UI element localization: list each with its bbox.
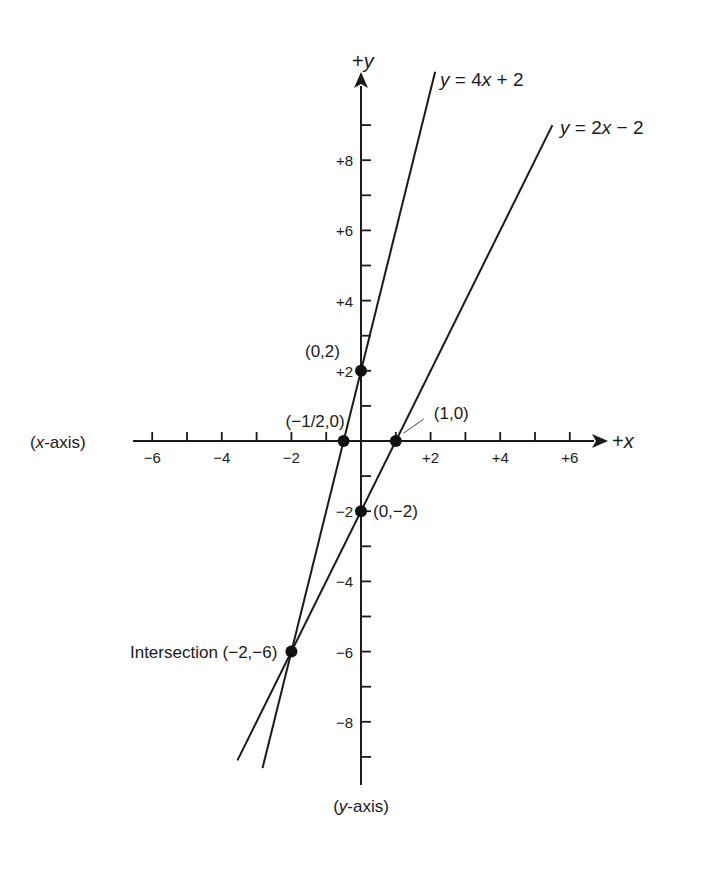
x-tick-label: −6: [144, 449, 161, 466]
y-end-var: y: [362, 50, 375, 72]
y-tick-label: +2: [336, 363, 353, 380]
point-label: (0,−2): [373, 502, 418, 521]
y-tick-label: −4: [336, 573, 353, 590]
x-axis-arrow-icon: [592, 434, 608, 448]
data-point: [285, 646, 297, 658]
x-tick-label: −4: [213, 449, 230, 466]
series-label-part: + 2: [491, 69, 523, 90]
y-axis-title: (y-axis): [333, 797, 389, 816]
series-label-part: = 4: [450, 69, 483, 90]
y-axis-title-rest: -axis): [347, 797, 389, 816]
series-label: y = 2x − 2: [558, 117, 643, 138]
y-tick-label: +4: [336, 293, 353, 310]
x-tick-label: −2: [283, 449, 300, 466]
axes: [133, 72, 608, 785]
y-end-label: +y: [352, 50, 375, 72]
x-end-label: +x: [612, 430, 635, 452]
y-tick-label: +6: [336, 222, 353, 239]
x-axis-title: (x-axis): [30, 433, 86, 452]
point-label: (1,0): [434, 404, 469, 423]
data-point: [338, 435, 350, 447]
x-tick-label: +4: [492, 449, 509, 466]
x-axis-title-var: x: [35, 433, 45, 452]
x-end-sign: +: [612, 430, 624, 452]
series-label-part: = 2: [570, 117, 602, 138]
y-tick-label: −6: [336, 644, 353, 661]
leader-line: [404, 419, 424, 433]
series-label-part: − 2: [611, 117, 643, 138]
x-end-var: x: [623, 430, 635, 452]
point-label: (0,2): [305, 342, 340, 361]
data-point: [355, 365, 367, 377]
series-label: y = 4x + 2: [438, 69, 523, 90]
y-end-sign: +: [352, 50, 364, 72]
x-axis-title-rest: -axis): [44, 433, 86, 452]
y-tick-label: −2: [336, 503, 353, 520]
chart: −6−4−2+2+4+6+8+6+4+2−2−4−6−8 y = 4x + 2y…: [0, 0, 704, 870]
point-label: (−1/2,0): [286, 412, 345, 431]
x-tick-label: +2: [422, 449, 439, 466]
y-tick-label: +8: [336, 152, 353, 169]
x-tick-label: +6: [561, 449, 578, 466]
points: (0,2)(−1/2,0)(1,0)(0,−2)Intersection (−2…: [130, 342, 469, 662]
y-tick-label: −8: [336, 714, 353, 731]
data-point: [355, 505, 367, 517]
data-point: [390, 435, 402, 447]
point-label: Intersection (−2,−6): [130, 643, 277, 662]
y-axis-arrow-icon: [354, 72, 368, 88]
